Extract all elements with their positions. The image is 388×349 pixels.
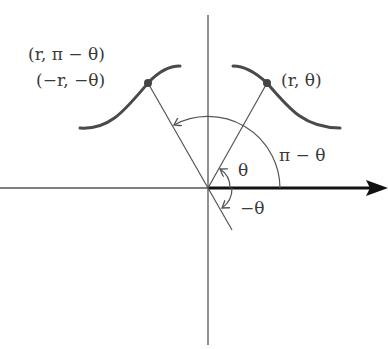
label-r-pi-minus-theta: (r, π − θ): [28, 46, 105, 63]
label-neg-theta: −θ: [240, 200, 264, 217]
polar-diagram: (r, π − θ) (−r, −θ) (r, θ) π − θ θ −θ: [0, 0, 388, 349]
label-r-theta: (r, θ): [281, 72, 322, 89]
point-neg-r: [144, 79, 152, 87]
arc-theta: [220, 169, 230, 188]
arc-neg-theta: [222, 188, 232, 208]
label-pi-minus-theta: π − θ: [279, 147, 325, 164]
label-neg-r-neg-theta: (−r, −θ): [36, 72, 105, 89]
point-r-theta: [263, 79, 271, 87]
label-theta: θ: [238, 162, 248, 179]
arc-pi-minus-theta: [174, 116, 280, 188]
ray-neg-r: [148, 83, 232, 230]
